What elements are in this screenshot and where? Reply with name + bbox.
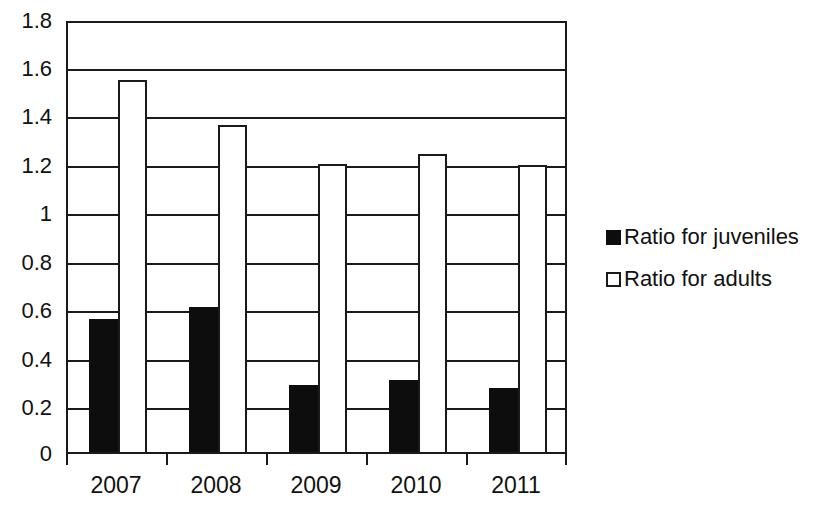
bar-adults-2011[interactable]	[518, 165, 547, 452]
x-axis-label-2011: 2011	[466, 472, 566, 498]
y-axis-tick-label: 1.2	[0, 155, 52, 177]
legend-label-adults: Ratio for adults	[624, 267, 772, 291]
y-axis-tick-label: 0.2	[0, 397, 52, 419]
bar-chart: 1.8 1.6 1.4 1.2 1 0.8 0.6 0.4 0.2 0	[0, 0, 822, 510]
x-axis-label-2007: 2007	[66, 472, 166, 498]
y-axis-tick-labels: 1.8 1.6 1.4 1.2 1 0.8 0.6 0.4 0.2 0	[0, 0, 52, 510]
x-axis-label-2009: 2009	[266, 472, 366, 498]
y-axis-tick-label: 0.6	[0, 300, 52, 322]
legend-label-juveniles: Ratio for juveniles	[624, 225, 799, 249]
legend-entry-juveniles[interactable]: Ratio for juveniles	[606, 216, 816, 258]
bar-adults-2007[interactable]	[118, 80, 147, 452]
bar-adults-2009[interactable]	[318, 164, 347, 452]
bar-juveniles-2009[interactable]	[289, 385, 318, 452]
legend-entry-adults[interactable]: Ratio for adults	[606, 258, 816, 300]
x-axis-tick	[66, 454, 68, 465]
y-axis-tick-label: 1.8	[0, 10, 52, 32]
bar-adults-2008[interactable]	[218, 125, 247, 452]
x-axis-label-2010: 2010	[366, 472, 466, 498]
y-axis-tick-label: 0.4	[0, 349, 52, 371]
bar-adults-2010[interactable]	[418, 154, 447, 452]
bars-layer	[68, 23, 565, 452]
y-axis-tick-label: 1	[0, 203, 52, 225]
chart-legend: Ratio for juveniles Ratio for adults	[606, 216, 816, 300]
plot-area	[66, 21, 567, 454]
bar-juveniles-2011[interactable]	[489, 388, 518, 452]
legend-swatch-outlined-square-icon	[606, 272, 621, 287]
x-axis-ticks	[0, 454, 822, 468]
y-axis-tick-label: 0.8	[0, 252, 52, 274]
x-axis-tick	[266, 454, 268, 465]
y-axis-tick-label: 1.6	[0, 58, 52, 80]
bar-juveniles-2008[interactable]	[189, 307, 218, 452]
x-axis-tick	[565, 454, 567, 465]
y-axis-tick-label: 1.4	[0, 106, 52, 128]
bar-juveniles-2007[interactable]	[89, 319, 118, 452]
x-axis-tick	[466, 454, 468, 465]
x-axis-tick	[166, 454, 168, 465]
x-axis-category-labels: 2007 2008 2009 2010 2011	[0, 472, 822, 506]
x-axis-label-2008: 2008	[166, 472, 266, 498]
bar-juveniles-2010[interactable]	[389, 380, 418, 452]
x-axis-tick	[366, 454, 368, 465]
legend-swatch-filled-square-icon	[606, 230, 621, 245]
